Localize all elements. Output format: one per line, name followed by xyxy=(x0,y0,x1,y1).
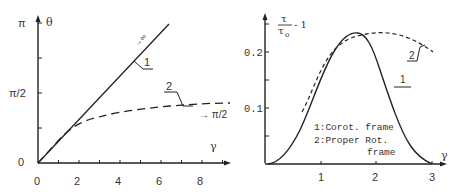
left-curve-1-note: →∞ xyxy=(132,32,148,48)
right-y-tick-0.1: 0.1 xyxy=(244,103,263,115)
right-y-axis-label-numerator: τ xyxy=(281,13,287,24)
right-x-tick-1: 1 xyxy=(318,171,324,183)
left-x-axis-arrow-icon xyxy=(224,161,231,166)
right-x-axis-arrow-icon xyxy=(440,162,447,167)
left-curve-2-label: 2 xyxy=(166,80,172,92)
right-y-axis-arrow-icon xyxy=(263,13,268,20)
left-curve-2-note: → π/2 xyxy=(199,109,227,120)
left-curve-2-leader xyxy=(164,92,193,106)
right-chart: 0.2 0.1 1 2 3 τ τ o - 1 γ 1 2 1:Corot. f… xyxy=(244,13,448,183)
right-curve-2 xyxy=(302,33,433,112)
left-chart: π π/2 0 0 2 4 6 8 θ γ →∞ 1 2 → π/2 xyxy=(9,15,231,187)
left-y-tick-zero: 0 xyxy=(18,156,24,168)
right-y-axis-label-subscript: o xyxy=(285,31,289,39)
right-y-axis-label-suffix: - 1 xyxy=(294,19,307,30)
right-x-tick-2: 2 xyxy=(372,171,378,183)
left-y-axis-arrow-icon xyxy=(36,15,41,22)
left-x-axis-label: γ xyxy=(210,140,217,153)
right-y-axis-label-denominator: τ xyxy=(278,25,284,36)
figure: π π/2 0 0 2 4 6 8 θ γ →∞ 1 2 → π/2 xyxy=(0,0,460,192)
right-x-axis-label: γ xyxy=(441,149,448,162)
left-y-axis-label: θ xyxy=(46,16,53,29)
left-y-tick-pi-half: π/2 xyxy=(9,87,26,99)
left-x-tick-6: 6 xyxy=(156,175,162,187)
left-x-tick-2: 2 xyxy=(74,175,80,187)
legend-entry-1: 1:Corot. frame xyxy=(314,122,394,133)
right-curve-1-label: 1 xyxy=(400,74,406,85)
right-x-tick-3: 3 xyxy=(429,171,435,183)
left-y-tick-pi: π xyxy=(18,17,26,29)
right-curve-2-label: 2 xyxy=(409,50,415,61)
left-x-tick-8: 8 xyxy=(197,175,203,187)
left-x-tick-4: 4 xyxy=(115,175,121,187)
legend-entry-2: 2:Proper Rot. xyxy=(314,135,388,146)
right-y-tick-0.2: 0.2 xyxy=(244,47,263,59)
left-curve-1-label: 1 xyxy=(144,56,150,68)
left-x-tick-0: 0 xyxy=(34,175,40,187)
legend-entry-2-cont: frame xyxy=(367,147,396,158)
